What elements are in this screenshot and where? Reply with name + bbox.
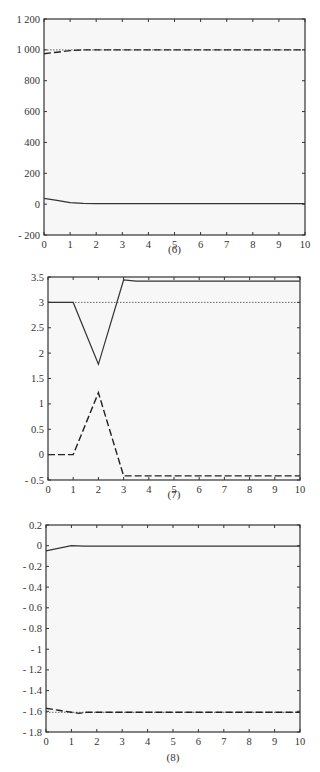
y-tick-label: - 0.8 xyxy=(23,623,42,634)
y-tick-label: 1.5 xyxy=(31,373,44,384)
x-tick-label: 1 xyxy=(67,239,72,250)
x-tick-label: 7 xyxy=(224,239,229,250)
x-tick-label: 2 xyxy=(94,239,99,250)
x-tick-label: 5 xyxy=(170,736,175,747)
y-tick-label: 3.5 xyxy=(31,272,44,283)
y-tick-label: 2.5 xyxy=(31,322,44,333)
x-tick-label: 4 xyxy=(146,484,152,495)
x-tick-label: 0 xyxy=(41,239,46,250)
x-tick-label: 4 xyxy=(145,736,151,747)
y-tick-label: 0.2 xyxy=(29,520,42,531)
chart-6: 012345678910- 20002004006008001 0001 200… xyxy=(0,0,320,258)
x-tick-label: 2 xyxy=(94,736,99,747)
y-tick-label: 0 xyxy=(39,449,44,460)
y-tick-label: 1 000 xyxy=(16,44,40,55)
plot-area xyxy=(44,19,305,235)
x-tick-label: 3 xyxy=(120,736,125,747)
y-tick-label: - 1.2 xyxy=(23,664,42,675)
y-tick-label: 0 xyxy=(35,199,40,210)
y-tick-label: - 1 xyxy=(31,644,42,655)
x-tick-label: 2 xyxy=(96,484,101,495)
x-tick-label: 0 xyxy=(43,736,48,747)
plot-area xyxy=(46,525,300,732)
x-tick-label: 0 xyxy=(45,484,50,495)
chart-caption: (8) xyxy=(167,751,180,764)
x-tick-label: 6 xyxy=(197,484,202,495)
y-tick-label: 0.5 xyxy=(31,424,44,435)
x-tick-label: 3 xyxy=(120,239,125,250)
x-tick-label: 1 xyxy=(71,484,76,495)
y-tick-label: - 1.6 xyxy=(23,706,42,717)
x-tick-label: 8 xyxy=(250,239,255,250)
x-tick-label: 7 xyxy=(221,736,226,747)
x-tick-label: 9 xyxy=(272,484,277,495)
y-tick-label: 2 xyxy=(39,348,44,359)
x-tick-label: 10 xyxy=(295,484,306,495)
y-tick-label: - 200 xyxy=(18,230,40,241)
y-tick-label: 200 xyxy=(24,168,40,179)
y-tick-label: - 0.4 xyxy=(23,582,43,593)
y-tick-label: - 0.6 xyxy=(23,602,42,613)
x-tick-label: 6 xyxy=(198,239,203,250)
x-tick-label: 8 xyxy=(247,736,252,747)
chart-8-plot: 012345678910- 1.8- 1.6- 1.4- 1.2- 1- 0.8… xyxy=(0,508,320,772)
x-tick-label: 1 xyxy=(69,736,74,747)
x-tick-label: 7 xyxy=(222,484,227,495)
x-tick-label: 4 xyxy=(146,239,152,250)
plot-area xyxy=(48,277,300,480)
y-tick-label: 600 xyxy=(24,106,40,117)
y-tick-label: 800 xyxy=(24,75,40,86)
x-tick-label: 6 xyxy=(196,736,201,747)
x-tick-label: 9 xyxy=(272,736,277,747)
y-tick-label: 1 200 xyxy=(16,14,40,25)
y-tick-label: 1 xyxy=(39,398,44,409)
chart-7: 012345678910- 0.500.511.522.533.5(7) xyxy=(0,258,320,508)
chart-caption: (6) xyxy=(168,243,181,256)
x-tick-label: 10 xyxy=(300,239,311,250)
x-tick-label: 9 xyxy=(276,239,281,250)
y-tick-label: - 0.2 xyxy=(23,561,42,572)
y-tick-label: 400 xyxy=(24,137,40,148)
y-tick-label: 0 xyxy=(37,540,42,551)
chart-7-plot: 012345678910- 0.500.511.522.533.5(7) xyxy=(0,258,320,508)
y-tick-label: - 1.4 xyxy=(23,685,43,696)
y-tick-label: 3 xyxy=(39,297,44,308)
chart-caption: (7) xyxy=(168,488,181,501)
chart-6-plot: 012345678910- 20002004006008001 0001 200… xyxy=(0,0,320,258)
chart-8: 012345678910- 1.8- 1.6- 1.4- 1.2- 1- 0.8… xyxy=(0,508,320,772)
x-tick-label: 3 xyxy=(121,484,126,495)
y-tick-label: - 1.8 xyxy=(23,727,42,738)
y-tick-label: - 0.5 xyxy=(25,475,44,486)
x-tick-label: 8 xyxy=(247,484,252,495)
x-tick-label: 10 xyxy=(295,736,306,747)
